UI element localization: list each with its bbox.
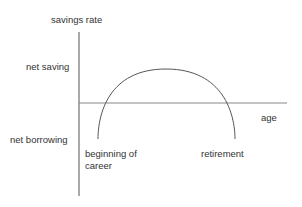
retirement-label: retirement — [201, 148, 244, 159]
beginning-of-career-label-line2: career — [85, 160, 112, 171]
savings-curve — [98, 69, 235, 139]
savings-lifecycle-diagram — [0, 0, 302, 207]
net-borrowing-label: net borrowing — [10, 134, 68, 145]
x-axis-label: age — [261, 112, 277, 123]
net-saving-label: net saving — [26, 61, 69, 72]
beginning-of-career-label-line1: beginning of — [85, 148, 137, 159]
y-axis-label: savings rate — [51, 14, 102, 25]
